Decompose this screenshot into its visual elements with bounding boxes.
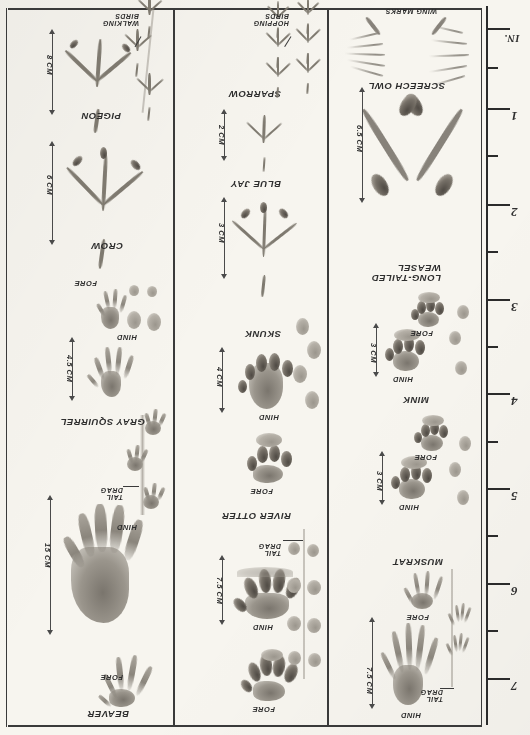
label-otter-hind: HIND	[253, 623, 273, 631]
ruler-tick-half-1	[486, 155, 498, 157]
ruler-tick-6	[486, 583, 510, 585]
label-weasel-fore: FORE	[410, 329, 433, 337]
plate-column-3: FORE 15 CM HIND TAIL DRAG	[6, 8, 174, 727]
label-skunk-fore: FORE	[250, 487, 273, 495]
ruler-tick-1	[486, 108, 510, 110]
dim-sparrow: 2 CM	[217, 125, 225, 145]
species-pigeon: PIGEON	[81, 111, 121, 121]
ruler-tick-half-6	[486, 630, 498, 632]
label-beaver-hind: HIND	[117, 523, 137, 531]
ruler-tick-half-0	[486, 67, 498, 69]
species-river-otter: RIVER OTTER	[222, 511, 291, 521]
ruler-tick-half-5	[486, 535, 498, 537]
ruler-label-6: 6	[511, 583, 518, 599]
label-beaver-fore: FORE	[100, 673, 123, 681]
ruler-label-7: 7	[511, 678, 518, 694]
ruler-tick-0	[486, 28, 510, 30]
ruler-tick-7	[486, 678, 510, 680]
dim-screech-owl: 6.5 CM	[355, 125, 363, 152]
label-muskrat-hind: HIND	[401, 711, 421, 719]
note-beaver-tail-drag: TAIL DRAG	[100, 486, 123, 501]
field-guide-plate: IN. 1 2 3 4 5 6 7 HIND	[0, 0, 530, 735]
ruler-tick-half-3	[486, 346, 498, 348]
label-skunk-hind: HIND	[259, 413, 279, 421]
dim-gray-squirrel: 4.5 CM	[65, 355, 73, 382]
ruler-rail	[486, 6, 488, 725]
dim-crow: 6 CM	[45, 175, 53, 195]
plate-column-1: HIND 7.5 CM FORE TAIL DRAG MUSKRAT	[328, 8, 482, 727]
species-screech-owl: SCREECH OWL	[368, 81, 445, 91]
inch-ruler: IN. 1 2 3 4 5 6 7	[486, 0, 530, 735]
ruler-tick-5	[486, 488, 510, 490]
ruler-tick-half-2	[486, 251, 498, 253]
ruler-label-2: 2	[511, 204, 518, 220]
dim-beaver: 15 CM	[43, 543, 51, 568]
ruler-tick-4	[486, 393, 510, 395]
ruler-label-1: 1	[511, 108, 518, 124]
species-beaver: BEAVER	[87, 709, 129, 719]
dim-weasel: 3 CM	[369, 343, 377, 363]
label-muskrat-fore: FORE	[406, 613, 429, 621]
note-screech-owl-wing-marks: WING MARKS	[385, 8, 437, 15]
ruler-tick-half-4	[486, 441, 498, 443]
label-otter-fore: FORE	[252, 705, 275, 713]
ruler-unit-label: IN.	[504, 33, 520, 44]
species-blue-jay: BLUE JAY	[231, 179, 281, 189]
dim-blue-jay: 3 CM	[217, 223, 225, 243]
dim-river-otter: 7.5 CM	[215, 577, 223, 604]
note-otter-tail-drag: TAIL DRAG	[258, 542, 281, 557]
species-skunk: SKUNK	[245, 329, 281, 339]
ruler-label-3: 3	[511, 299, 518, 315]
species-long-tailed-weasel: LONG-TAILED WEASEL	[371, 263, 441, 283]
note-muskrat-tail-drag: TAIL DRAG	[420, 688, 443, 703]
label-mink-fore: FORE	[414, 453, 437, 461]
ruler-tick-3	[486, 299, 510, 301]
dim-muskrat: 7.5 CM	[365, 667, 373, 694]
label-mink-hind: HIND	[399, 503, 419, 511]
ruler-label-5: 5	[511, 488, 518, 504]
plate-column-2: FORE HIND 7.5 CM TAIL DRAG RIVER OTT	[174, 8, 328, 727]
dim-pigeon: 8 CM	[45, 55, 53, 75]
species-mink: MINK	[403, 395, 429, 405]
species-sparrow: SPARROW	[229, 89, 281, 99]
label-squirrel-fore: FORE	[74, 279, 97, 287]
note-walking-birds: WALKING BIRDS	[102, 12, 139, 27]
label-weasel-hind: HIND	[393, 375, 413, 383]
dim-skunk: 4 CM	[215, 367, 223, 387]
ruler-tick-2	[486, 204, 510, 206]
label-squirrel-hind: HIND	[117, 333, 137, 341]
species-muskrat: MUSKRAT	[393, 557, 443, 567]
ruler-label-4: 4	[511, 393, 518, 409]
species-gray-squirrel: GRAY SQUIRREL	[60, 417, 145, 427]
dim-mink: 3 CM	[375, 471, 383, 491]
species-crow: CROW	[91, 241, 123, 251]
note-hopping-birds: HOPPING BIRDS	[253, 12, 289, 27]
